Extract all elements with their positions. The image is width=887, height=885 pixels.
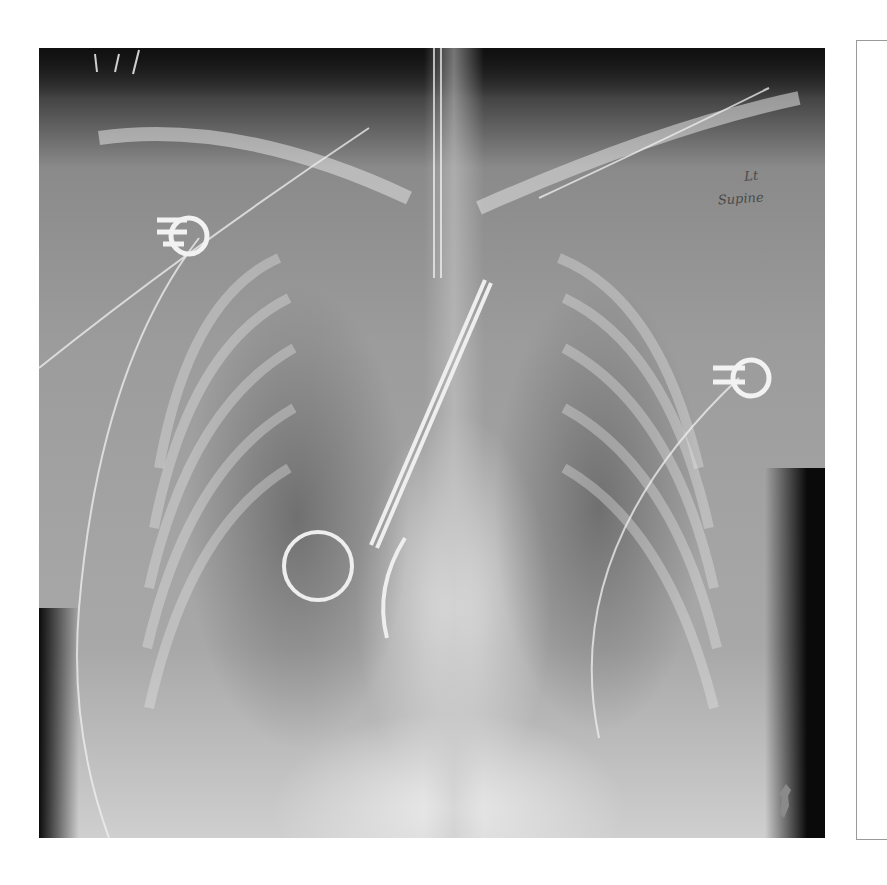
annotation-side: Lt: [743, 164, 762, 187]
film-frame-edge: [856, 40, 887, 840]
chest-xray-image: [39, 48, 825, 838]
lead-marker: [778, 784, 792, 818]
laterality-annotation: Lt Supine: [743, 164, 764, 209]
radiograph-structures: [39, 48, 825, 838]
annotation-position: Supine: [717, 186, 764, 211]
